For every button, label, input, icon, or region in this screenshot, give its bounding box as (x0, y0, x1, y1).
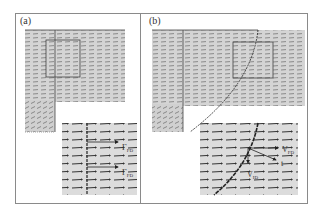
panel-b-field (152, 30, 305, 132)
panel-b-inset: VFD t VID (200, 123, 298, 195)
panel-a-field (25, 30, 125, 132)
figure-graphics: ΓFD ΓFD VFD t VID (0, 0, 323, 217)
panel-a-inset: ΓFD ΓFD (62, 123, 137, 195)
